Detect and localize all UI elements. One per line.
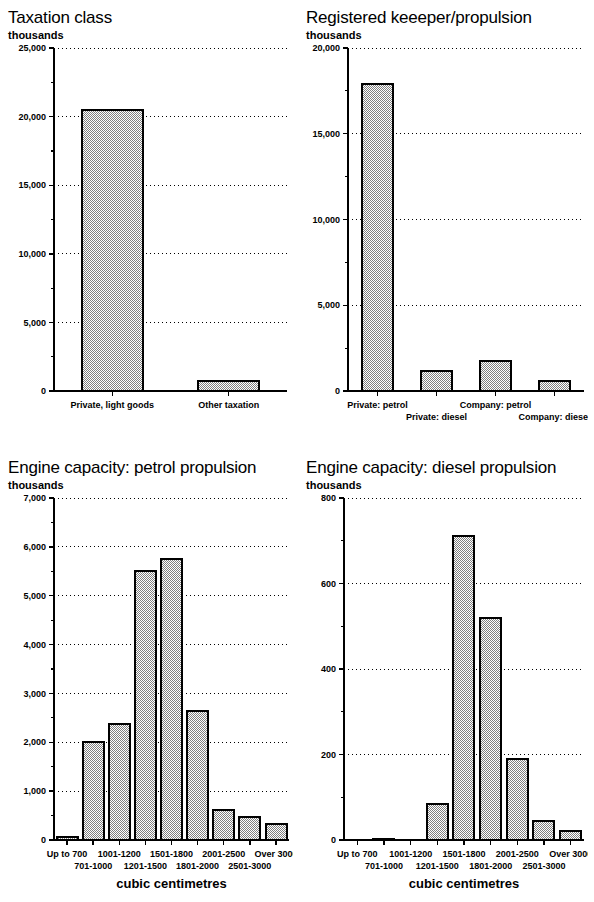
y-tick-label: 0	[331, 835, 336, 845]
chart-canvas-taxation-class: 05,00010,00015,00020,00025,000Private, l…	[8, 42, 298, 437]
x-category-label: 1501-1800	[442, 849, 485, 859]
bar	[533, 821, 554, 840]
x-category-label: 701-1000	[74, 861, 112, 871]
units-label: thousands	[306, 29, 592, 42]
x-category-label: 2501-3000	[522, 861, 565, 871]
chart-title: Taxation class	[8, 8, 298, 28]
bar	[480, 361, 511, 391]
x-category-label: 1001-1200	[98, 849, 141, 859]
y-tick-label: 0	[335, 386, 340, 396]
y-tick-label: 200	[321, 750, 336, 760]
y-tick-label: 400	[321, 664, 336, 674]
x-axis-title: cubic centimetres	[409, 876, 520, 891]
chart-canvas-engine-capacity-diesel: 0200400600800Up to 700701-10001001-12001…	[306, 492, 592, 902]
bar	[239, 817, 260, 840]
y-tick-label: 1,000	[23, 786, 46, 796]
y-tick-label: 10,000	[312, 215, 340, 225]
y-tick-label: 5,000	[23, 591, 46, 601]
x-category-label: 1501-1800	[150, 849, 193, 859]
chart-panel-taxation-class: Taxation class thousands 05,00010,00015,…	[8, 8, 298, 437]
x-category-label: Private: petrol	[347, 400, 408, 410]
bar	[161, 559, 182, 840]
units-label: thousands	[306, 479, 592, 492]
x-category-label: Private, light goods	[70, 400, 154, 410]
chart-canvas-engine-capacity-petrol: 01,0002,0003,0004,0005,0006,0007,000Up t…	[8, 492, 298, 902]
x-category-label: Company: petrol	[460, 400, 532, 410]
bar	[266, 824, 287, 840]
bar	[507, 759, 528, 840]
x-category-label: Up to 700	[337, 849, 378, 859]
y-tick-label: 15,000	[312, 129, 340, 139]
y-tick-label: 20,000	[312, 43, 340, 53]
x-category-label: 1801-2000	[469, 861, 512, 871]
x-category-label: Over 3000	[254, 849, 293, 859]
units-label: thousands	[8, 479, 298, 492]
x-category-label: 2001-2500	[496, 849, 539, 859]
x-category-label: 701-1000	[365, 861, 403, 871]
bar	[480, 618, 501, 840]
bar	[560, 831, 581, 840]
x-category-label: 1801-2000	[176, 861, 219, 871]
y-tick-label: 3,000	[23, 689, 46, 699]
x-category-label: 1201-1500	[416, 861, 459, 871]
chart-panel-engine-capacity-petrol: Engine capacity: petrol propulsion thous…	[8, 458, 298, 902]
bar	[453, 536, 474, 840]
chart-title: Engine capacity: diesel propulsion	[306, 458, 592, 478]
bar	[539, 381, 570, 391]
chart-title: Engine capacity: petrol propulsion	[8, 458, 298, 478]
bar	[82, 110, 143, 391]
chart-panel-registered-keeper-propulsion: Registered keeeper/propulsion thousands …	[306, 8, 592, 437]
chart-panel-engine-capacity-diesel: Engine capacity: diesel propulsion thous…	[306, 458, 592, 902]
x-category-label: Private: diesel	[406, 412, 467, 422]
x-category-label: 1201-1500	[124, 861, 167, 871]
x-category-label: 2001-2500	[202, 849, 245, 859]
x-category-label: 2501-3000	[228, 861, 271, 871]
bar	[213, 810, 234, 840]
bar	[109, 724, 130, 840]
y-tick-label: 10,000	[18, 249, 46, 259]
chart-title: Registered keeeper/propulsion	[306, 8, 592, 28]
x-axis-title: cubic centimetres	[116, 876, 227, 891]
chart-canvas-registered-keeper-propulsion: 05,00010,00015,00020,000Private: petrolP…	[306, 42, 592, 437]
y-tick-label: 5,000	[23, 318, 46, 328]
y-tick-label: 800	[321, 493, 336, 503]
bar	[83, 742, 104, 840]
y-tick-label: 5,000	[317, 300, 340, 310]
y-tick-label: 0	[41, 835, 46, 845]
y-tick-label: 25,000	[18, 43, 46, 53]
y-tick-label: 600	[321, 579, 336, 589]
y-tick-label: 2,000	[23, 737, 46, 747]
bar	[421, 371, 452, 391]
x-category-label: Up to 700	[47, 849, 88, 859]
x-category-label: Company: diesel	[518, 412, 588, 422]
x-category-label: Over 3000	[549, 849, 588, 859]
units-label: thousands	[8, 29, 298, 42]
y-tick-label: 0	[41, 386, 46, 396]
bar	[135, 571, 156, 840]
bar	[187, 711, 208, 840]
y-tick-label: 20,000	[18, 112, 46, 122]
y-tick-label: 4,000	[23, 640, 46, 650]
bar	[362, 84, 393, 391]
y-tick-label: 6,000	[23, 542, 46, 552]
bar	[427, 804, 448, 840]
bar	[198, 381, 259, 391]
y-tick-label: 15,000	[18, 180, 46, 190]
y-tick-label: 7,000	[23, 493, 46, 503]
x-category-label: 1001-1200	[389, 849, 432, 859]
x-category-label: Other taxation	[198, 400, 259, 410]
